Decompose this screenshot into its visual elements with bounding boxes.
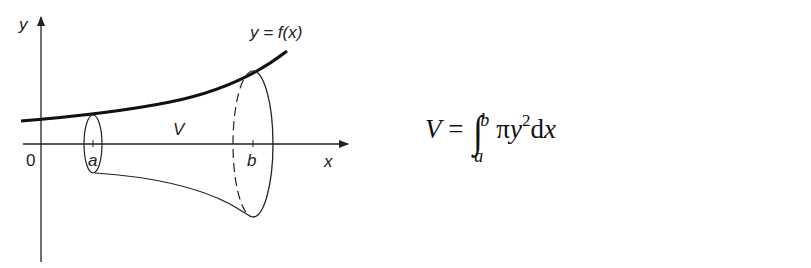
lower-limit: a xyxy=(474,146,483,167)
formula-dx-var: x xyxy=(544,114,556,144)
formula-y: y xyxy=(510,114,522,144)
formula-equals: = xyxy=(448,114,463,144)
curve-f-of-x xyxy=(21,51,287,121)
curve-label: y = f(x) xyxy=(249,23,302,42)
volume-label: V xyxy=(173,120,186,139)
formula-lhs: V xyxy=(425,114,442,144)
origin-label: 0 xyxy=(26,151,35,170)
formula-d: d xyxy=(530,114,544,144)
volume-formula: V = ∫baπy2dx xyxy=(425,98,556,149)
bound-a-label: a xyxy=(88,151,97,170)
solid-of-revolution-diagram: y x 0 a b V y = f(x) xyxy=(0,0,811,268)
bound-b-label: b xyxy=(247,151,256,170)
lower-profile xyxy=(95,173,250,216)
upper-limit: b xyxy=(480,110,489,131)
y-axis-label: y xyxy=(18,15,29,34)
formula-pi: π xyxy=(496,114,510,144)
x-axis-label: x xyxy=(323,152,333,171)
